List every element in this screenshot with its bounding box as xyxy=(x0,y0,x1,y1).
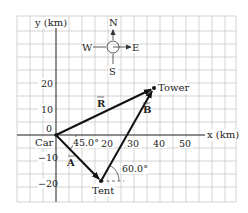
vector-b-label-group: B xyxy=(143,103,151,115)
angle-label-60: 60.0° xyxy=(122,163,148,174)
y-axis-label: y (km) xyxy=(34,17,67,28)
compass-west: W xyxy=(82,42,93,53)
car-point xyxy=(54,133,58,137)
tent-point xyxy=(99,179,103,183)
compass-rose: N S W E xyxy=(82,17,140,77)
tent-label: Tent xyxy=(92,185,114,196)
tower-label: Tower xyxy=(158,82,189,93)
x-axis-label: x (km) xyxy=(207,129,239,140)
x-tick-30: 30 xyxy=(127,138,139,149)
tower-point xyxy=(152,86,156,90)
x-tick-20: 20 xyxy=(101,138,113,149)
vector-a-label: A xyxy=(66,157,75,168)
x-tick-40: 40 xyxy=(153,138,165,149)
y-tick-0: 0 xyxy=(46,123,52,134)
vector-diagram: y (km) x (km) 20 10 0 −10 −20 20 30 40 5… xyxy=(0,0,248,213)
y-tick-20: 20 xyxy=(41,78,53,89)
vector-r-label: R xyxy=(97,98,106,109)
compass-south: S xyxy=(109,66,116,77)
vector-r-label-group: R xyxy=(97,97,106,109)
compass-east: E xyxy=(132,42,139,53)
angle-arc-60 xyxy=(110,165,119,181)
vector-b-label: B xyxy=(143,104,151,115)
angle-label-45: 45.0° xyxy=(73,137,99,148)
vector-a-label-group: A xyxy=(66,156,75,168)
y-tick-neg20: −20 xyxy=(38,178,58,189)
x-tick-50: 50 xyxy=(179,138,191,149)
y-tick-10: 10 xyxy=(41,104,53,115)
y-tick-neg10: −10 xyxy=(38,152,58,163)
car-label: Car xyxy=(35,137,54,148)
compass-north: N xyxy=(109,17,118,28)
